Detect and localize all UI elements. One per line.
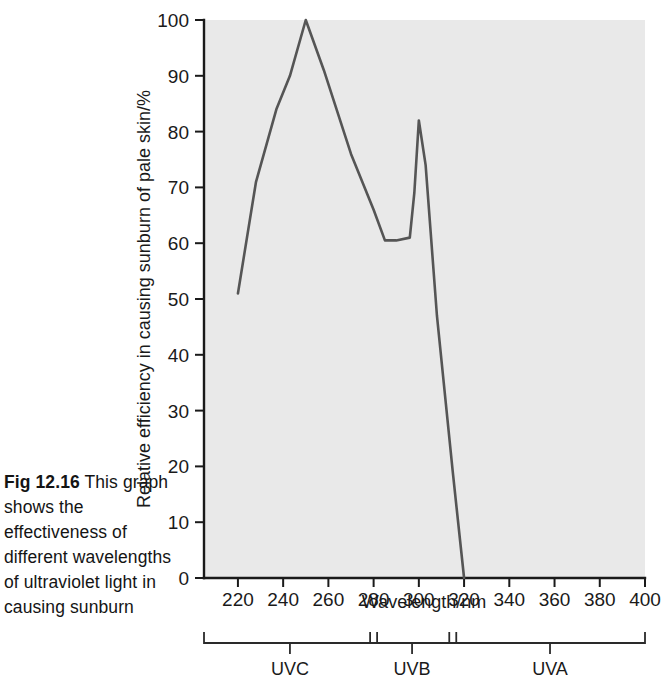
uv-band-scale: UVCUVBUVA xyxy=(204,632,645,679)
uv-band-label-uvc: UVC xyxy=(271,659,309,679)
y-tick-label: 100 xyxy=(157,10,189,31)
y-axis-title: Relative efficiency in causing sunburn o… xyxy=(134,90,154,508)
sunburn-efficiency-chart: 0102030405060708090100 22024026028030032… xyxy=(0,0,662,680)
x-tick-label: 400 xyxy=(629,589,661,610)
y-tick-label: 90 xyxy=(168,66,189,87)
x-axis-ticks xyxy=(238,578,645,587)
y-tick-label: 10 xyxy=(168,512,189,533)
y-tick-label: 30 xyxy=(168,401,189,422)
y-tick-label: 60 xyxy=(168,233,189,254)
y-tick-label: 40 xyxy=(168,345,189,366)
figure-root: Fig 12.16 This graph shows the effective… xyxy=(0,0,662,680)
uv-band-rule xyxy=(204,632,645,643)
uv-band-label-uvb: UVB xyxy=(394,659,431,679)
y-tick-label: 70 xyxy=(168,177,189,198)
y-tick-label: 0 xyxy=(178,568,189,589)
y-tick-label: 20 xyxy=(168,456,189,477)
x-tick-label: 260 xyxy=(313,589,345,610)
plot-area-background xyxy=(204,20,645,578)
y-tick-label: 80 xyxy=(168,122,189,143)
x-tick-label: 360 xyxy=(539,589,571,610)
x-tick-label: 340 xyxy=(493,589,525,610)
uv-band-label-uva: UVA xyxy=(532,659,568,679)
y-tick-label: 50 xyxy=(168,289,189,310)
y-axis-tick-labels: 0102030405060708090100 xyxy=(157,10,189,589)
x-axis-title: Wavelength/nm xyxy=(362,592,486,612)
x-tick-label: 240 xyxy=(267,589,299,610)
y-axis-ticks xyxy=(195,20,204,578)
x-tick-label: 220 xyxy=(222,589,254,610)
x-tick-label: 380 xyxy=(584,589,616,610)
